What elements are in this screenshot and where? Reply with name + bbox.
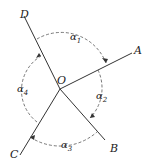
angle-diagram: D A B C O α1 α2 α3 α4 [0, 0, 147, 167]
arrowhead-alpha1 [102, 58, 108, 63]
ray-oa [60, 53, 132, 89]
label-b: B [109, 142, 118, 155]
label-alpha4: α4 [17, 83, 28, 97]
label-alpha2: α2 [96, 90, 108, 104]
angle-arcs [21, 32, 106, 146]
arrowhead-alpha3 [30, 135, 35, 140]
arrowhead-alpha4 [36, 53, 41, 58]
ray-oc [20, 89, 60, 155]
label-o: O [57, 74, 66, 87]
label-c: C [10, 148, 19, 161]
label-a: A [133, 44, 142, 57]
label-alpha3: α3 [61, 139, 73, 153]
ray-od [24, 16, 60, 89]
label-d: D [19, 8, 29, 21]
label-alpha1: α1 [70, 31, 81, 45]
arrowhead-alpha2 [90, 113, 95, 118]
